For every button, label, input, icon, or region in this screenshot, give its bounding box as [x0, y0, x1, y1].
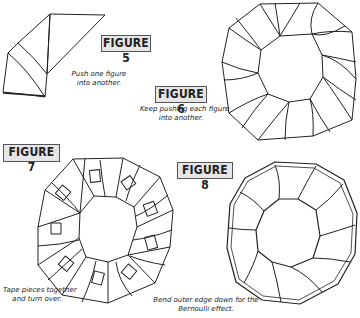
- figure-8-label: FIGURE 8: [177, 162, 233, 179]
- figure-8-caption: Bend outer edge down for the Bernoulli e…: [152, 296, 260, 314]
- caption-line: into another.: [140, 114, 222, 123]
- caption-line: Keep pushing each figure: [140, 105, 222, 114]
- caption-line: into another.: [64, 79, 134, 88]
- figure-7-label: FIGURE 7: [3, 144, 60, 162]
- figure-8-drawing: [227, 162, 357, 304]
- figure-5-label: FIGURE 5: [101, 35, 151, 52]
- caption-line: Bernoulli effect.: [152, 305, 260, 314]
- figure-7-drawing: [38, 158, 173, 303]
- figure-6-caption: Keep pushing each figure into another.: [140, 105, 222, 123]
- caption-line: Push one figure: [64, 70, 134, 79]
- figure-6-label: FIGURE 6: [155, 86, 207, 103]
- figure-7-caption: Tape pieces together and turn over.: [3, 286, 71, 304]
- caption-line: and turn over.: [3, 295, 71, 304]
- figure-5-caption: Push one figure into another.: [64, 70, 134, 88]
- caption-line: Tape pieces together: [3, 286, 71, 295]
- figure-6-drawing: [222, 3, 356, 140]
- caption-line: Bend outer edge down for the: [152, 296, 260, 305]
